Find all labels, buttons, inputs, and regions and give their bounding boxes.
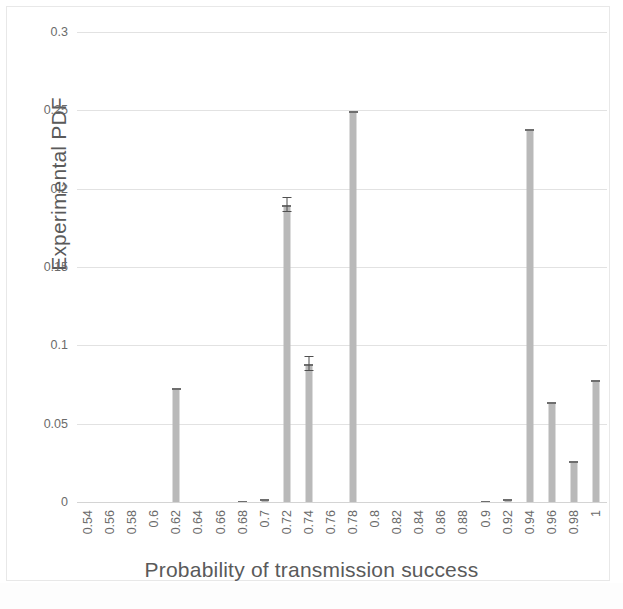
bar-slot[interactable]: 0.98 [563,33,585,503]
x-axis-line [77,502,607,503]
x-tick-label: 0.72 [280,510,294,534]
x-tick-label: 0.88 [456,510,470,534]
error-bar [286,198,287,212]
bars-group: 0.540.560.580.60.620.640.660.680.70.720.… [77,33,607,503]
bar-slot[interactable]: 0.56 [99,33,121,503]
bar-top-cap [525,129,534,131]
bar-slot[interactable]: 0.74 [298,33,320,503]
bar-slot[interactable]: 0.8 [364,33,386,503]
bar-slot[interactable]: 0.66 [210,33,232,503]
error-bar-cap-top [304,356,313,357]
bar-top-cap [503,499,512,501]
bar-slot[interactable]: 1 [585,33,607,503]
chart-figure: Experimental PDF 00.050.10.150.20.250.3 … [0,0,623,609]
bar-slot[interactable]: 0.72 [276,33,298,503]
bar-slot[interactable]: 0.64 [187,33,209,503]
bar-slot[interactable]: 0.58 [121,33,143,503]
bar-top-cap [569,461,578,463]
y-tick-label: 0.3 [51,25,68,39]
bar-slot[interactable]: 0.84 [408,33,430,503]
y-tick-label: 0.15 [44,260,68,274]
error-bar-cap-bottom [282,211,291,212]
x-tick-label: 0.66 [214,510,228,534]
bar[interactable] [173,388,180,503]
bar[interactable] [548,402,555,503]
y-tick-label: 0 [61,495,68,509]
bar[interactable] [305,364,312,503]
bar-slot[interactable]: 0.9 [475,33,497,503]
x-tick-label: 0.96 [545,510,559,534]
bar-slot[interactable]: 0.88 [452,33,474,503]
x-tick-label: 0.8 [368,510,382,527]
bar-slot[interactable]: 0.78 [342,33,364,503]
bar-top-cap [591,380,600,382]
x-tick-label: 1 [589,510,603,517]
x-tick-label: 0.84 [412,510,426,534]
bar-slot[interactable]: 0.94 [519,33,541,503]
bar-slot[interactable]: 0.82 [386,33,408,503]
bar-top-cap [172,388,181,390]
error-bar [308,357,309,371]
x-axis-title: Probability of transmission success [0,558,623,582]
bar[interactable] [526,129,533,503]
bar-slot[interactable]: 0.86 [430,33,452,503]
bar-slot[interactable]: 0.76 [320,33,342,503]
bar[interactable] [283,205,290,503]
plot-area: 00.050.10.150.20.250.3 0.540.560.580.60.… [77,33,607,503]
x-tick-label: 0.64 [191,510,205,534]
bar[interactable] [570,461,577,503]
y-tick-label: 0.1 [51,338,68,352]
bar-slot[interactable]: 0.7 [254,33,276,503]
x-tick-label: 0.92 [501,510,515,534]
x-tick-label: 0.86 [434,510,448,534]
bar[interactable] [350,111,357,503]
x-tick-label: 0.78 [346,510,360,534]
error-bar-cap-top [282,197,291,198]
x-tick-label: 0.94 [523,510,537,534]
x-tick-label: 0.54 [81,510,95,534]
y-tick-label: 0.25 [44,103,68,117]
bar-top-cap [349,111,358,113]
bar-slot[interactable]: 0.68 [232,33,254,503]
bar-slot[interactable]: 0.96 [541,33,563,503]
x-tick-label: 0.98 [567,510,581,534]
bar-slot[interactable]: 0.92 [497,33,519,503]
bar-slot[interactable]: 0.54 [77,33,99,503]
x-tick-label: 0.56 [103,510,117,534]
error-bar-cap-bottom [304,370,313,371]
x-tick-label: 0.76 [324,510,338,534]
x-tick-label: 0.68 [236,510,250,534]
x-tick-label: 0.6 [147,510,161,527]
x-tick-label: 0.82 [390,510,404,534]
scan-artifact-strip [0,583,623,609]
x-tick-label: 0.74 [302,510,316,534]
bar-top-cap [547,402,556,404]
x-tick-label: 0.58 [125,510,139,534]
y-tick-label: 0.05 [44,417,68,431]
x-tick-label: 0.62 [169,510,183,534]
x-tick-label: 0.7 [258,510,272,527]
x-tick-label: 0.9 [479,510,493,527]
bar-top-cap [260,499,269,501]
bar-slot[interactable]: 0.6 [143,33,165,503]
bar[interactable] [592,380,599,503]
bar-slot[interactable]: 0.62 [165,33,187,503]
y-tick-label: 0.2 [51,182,68,196]
